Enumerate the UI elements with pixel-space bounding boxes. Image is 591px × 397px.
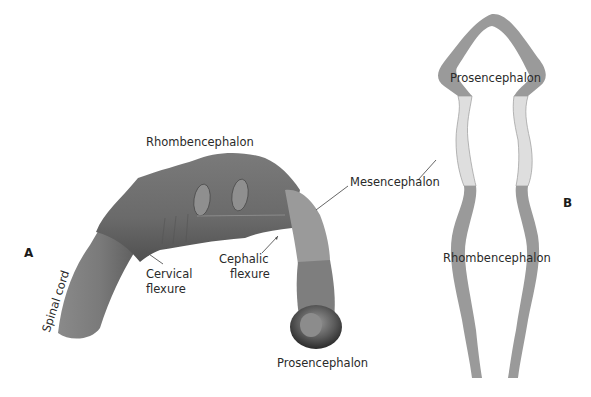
label-prosencephalon-a: Prosencephalon [277,357,368,370]
label-cephalic-1: Cephalic [219,253,268,266]
optic-bulge [300,313,322,337]
label-cervical-1: Cervical [146,268,192,281]
label-prosencephalon-b: Prosencephalon [450,72,541,85]
label-rhombencephalon-a: Rhombencephalon [146,136,254,149]
mesencephalon-wall-left [456,96,476,186]
label-rhombencephalon-b: Rhombencephalon [443,252,551,265]
mesencephalon-leader-a [316,186,348,210]
neural-tube-diagram [0,0,591,397]
panel-b-letter: B [563,196,572,210]
mesencephalon-wall-right [513,96,532,186]
label-cervical-2: flexure [146,283,186,296]
rhombencephalon-wall-right [508,186,539,378]
label-cephalic-2: flexure [230,268,270,281]
rhombencephalon-wall-left [451,186,482,378]
panel-a-letter: A [24,246,33,260]
panel-b-section [438,14,546,378]
label-mesencephalon: Mesencephalon [350,176,440,189]
panel-a-brain-tube [58,153,342,349]
